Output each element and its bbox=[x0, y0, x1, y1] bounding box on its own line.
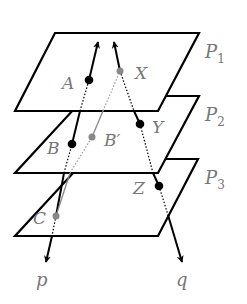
label-ray-p: p bbox=[36, 269, 48, 290]
point-x bbox=[117, 68, 124, 75]
point-b bbox=[68, 140, 77, 149]
label-x: X bbox=[133, 63, 148, 83]
label-plane-p3: P3 bbox=[204, 167, 225, 192]
ray-p bbox=[46, 236, 52, 262]
label-plane-p1: P1 bbox=[204, 41, 225, 66]
point-a bbox=[85, 76, 94, 85]
three-planes-diagram: A X B B′ Y C Z P1 P2 P3 p q bbox=[0, 0, 247, 304]
ray-q bbox=[168, 215, 182, 262]
point-bprime bbox=[89, 134, 96, 141]
point-c bbox=[53, 213, 60, 220]
label-bprime: B′ bbox=[103, 130, 120, 150]
label-y: Y bbox=[152, 117, 165, 137]
point-y bbox=[136, 120, 145, 129]
point-z bbox=[155, 182, 164, 191]
label-plane-p2: P2 bbox=[204, 104, 225, 129]
label-ray-q: q bbox=[176, 269, 188, 290]
label-c: C bbox=[33, 208, 46, 228]
label-b: B bbox=[46, 138, 60, 158]
label-z: Z bbox=[132, 178, 146, 198]
label-a: A bbox=[60, 73, 74, 93]
